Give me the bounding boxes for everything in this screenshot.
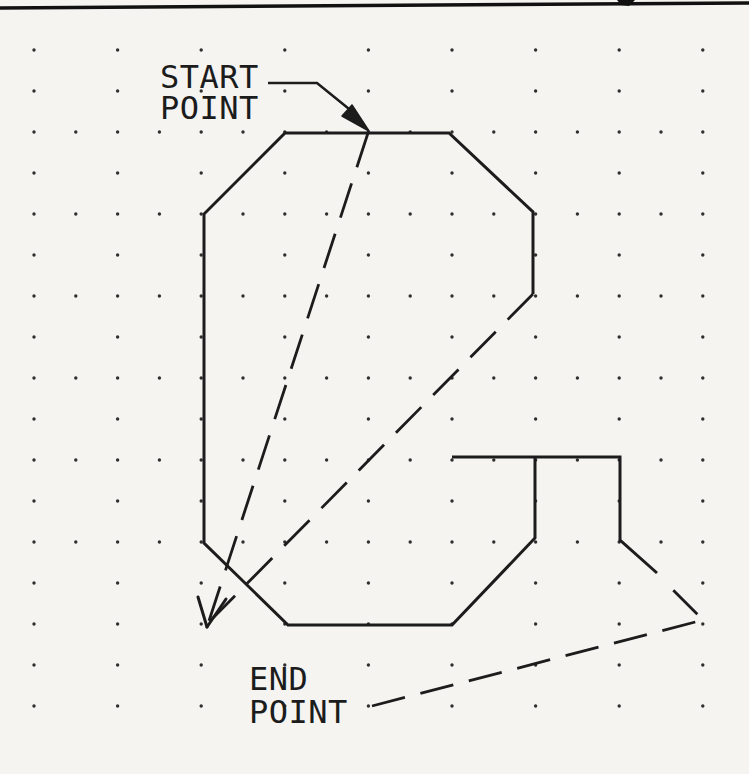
page-top-rule xyxy=(0,0,749,8)
dot-grid xyxy=(32,48,704,707)
start-point-label-line2: POINT xyxy=(160,89,259,127)
figure-canvas: START POINT END POINT xyxy=(0,0,749,774)
end-point-leader xyxy=(372,585,703,706)
rubber-band-dashed-lines xyxy=(207,133,533,627)
scanned-book-page: START POINT END POINT xyxy=(0,0,749,774)
start-point-leader-arrow xyxy=(268,83,369,131)
end-point-label-line2: POINT xyxy=(249,693,348,731)
letter-g-outline xyxy=(204,133,657,625)
